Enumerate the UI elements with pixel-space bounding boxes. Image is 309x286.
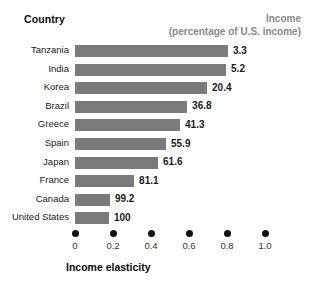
country-label: France <box>0 174 69 185</box>
bar-value-label: 3.3 <box>233 45 247 56</box>
column-header-income: Income <box>266 13 301 24</box>
chart-row: Korea20.4 <box>0 79 309 98</box>
country-label: Canada <box>0 193 69 204</box>
chart-row: Canada99.2 <box>0 191 309 210</box>
bar <box>75 194 110 206</box>
axis-tick-label: 1.0 <box>258 240 271 251</box>
country-label: Japan <box>0 156 69 167</box>
column-header-income-subtitle: (percentage of U.S. income) <box>169 26 301 37</box>
chart-row: Japan61.6 <box>0 154 309 173</box>
country-label: Greece <box>0 118 69 129</box>
country-label: India <box>0 63 69 74</box>
bar <box>75 101 187 113</box>
chart-row: Brazil36.8 <box>0 98 309 117</box>
country-label: Brazil <box>0 100 69 111</box>
axis-tick-dot <box>224 230 231 237</box>
column-header-country: Country <box>24 13 65 25</box>
income-elasticity-chart: Country Income (percentage of U.S. incom… <box>0 0 309 286</box>
country-label: Spain <box>0 137 69 148</box>
bar-value-label: 5.2 <box>231 63 245 74</box>
x-axis-title: Income elasticity <box>66 261 151 273</box>
bar-value-label: 81.1 <box>139 175 158 186</box>
country-label: United States <box>0 211 69 222</box>
bar <box>75 119 180 131</box>
axis-tick-dot <box>148 230 155 237</box>
bar-value-label: 55.9 <box>171 138 190 149</box>
chart-row: United States100 <box>0 209 309 228</box>
bar <box>75 175 134 187</box>
bar-value-label: 99.2 <box>115 193 134 204</box>
axis-tick-dot <box>186 230 193 237</box>
chart-row: India5.2 <box>0 61 309 80</box>
chart-row: Tanzania3.3 <box>0 42 309 61</box>
bar <box>75 212 109 224</box>
bar <box>75 82 207 94</box>
chart-row: Spain55.9 <box>0 135 309 154</box>
axis-tick-label: 0.6 <box>182 240 195 251</box>
axis-tick-label: 0.8 <box>220 240 233 251</box>
country-label: Korea <box>0 81 69 92</box>
chart-row: France81.1 <box>0 172 309 191</box>
plot-area: Tanzania3.3India5.2Korea20.4Brazil36.8Gr… <box>0 42 309 230</box>
bar <box>75 64 226 76</box>
bar-value-label: 100 <box>114 212 131 223</box>
x-axis: 00.20.40.60.81.0 <box>0 230 309 260</box>
axis-tick-dot <box>110 230 117 237</box>
bar-value-label: 36.8 <box>192 100 211 111</box>
bar <box>75 45 228 57</box>
country-label: Tanzania <box>0 44 69 55</box>
axis-tick-label: 0 <box>72 240 77 251</box>
axis-tick-label: 0.2 <box>106 240 119 251</box>
chart-row: Greece41.3 <box>0 116 309 135</box>
bar <box>75 138 166 150</box>
axis-tick-dot <box>262 230 269 237</box>
axis-tick-label: 0.4 <box>144 240 157 251</box>
bar-value-label: 61.6 <box>163 156 182 167</box>
bar <box>75 157 158 169</box>
bar-value-label: 41.3 <box>185 119 204 130</box>
bar-value-label: 20.4 <box>212 82 231 93</box>
axis-tick-dot <box>72 230 79 237</box>
